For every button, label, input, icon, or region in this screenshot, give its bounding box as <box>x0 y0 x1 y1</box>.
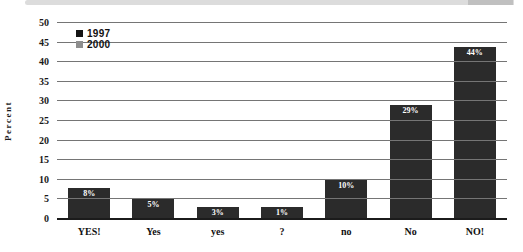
plot-area: 8%5%3%1%10%29%44% <box>57 23 507 219</box>
bar-NO!: 44% <box>454 47 496 219</box>
gridline-35 <box>57 81 507 82</box>
y-tick-label-20: 20 <box>39 136 49 146</box>
bar-slot: 10% <box>314 23 378 219</box>
category-label-no: no <box>314 226 378 242</box>
bar-slot: 5% <box>121 23 185 219</box>
gridline-40 <box>57 61 507 62</box>
gridline-5 <box>57 198 507 199</box>
category-label-Yes: Yes <box>121 226 185 242</box>
legend-swatch-2000 <box>76 41 83 48</box>
legend-row-1997: 1997 <box>76 28 110 39</box>
y-tick-label-5: 5 <box>44 194 49 204</box>
scroll-thumb <box>468 0 513 5</box>
legend: 19972000 <box>76 28 110 50</box>
y-tick-label-30: 30 <box>39 96 49 106</box>
category-label-yes: yes <box>186 226 250 242</box>
bar-value-label: 10% <box>325 180 367 191</box>
category-label-YES!: YES! <box>57 226 121 242</box>
bar-value-label: 44% <box>454 47 496 58</box>
gridline-25 <box>57 120 507 121</box>
bar-slot: 44% <box>443 23 507 219</box>
category-label-?: ? <box>250 226 314 242</box>
gridline-15 <box>57 159 507 160</box>
bar-value-label: 5% <box>132 199 174 210</box>
gridline-45 <box>57 42 507 43</box>
y-axis-tick-labels: 05101520253035404550 <box>0 23 53 219</box>
bar-slot: 3% <box>186 23 250 219</box>
gridline-10 <box>57 179 507 180</box>
bar-slot: 1% <box>250 23 314 219</box>
y-tick-label-40: 40 <box>39 57 49 67</box>
y-tick-label-45: 45 <box>39 38 49 48</box>
y-tick-label-50: 50 <box>39 18 49 28</box>
x-axis-category-labels: YES!Yesyes?noNoNO! <box>57 226 507 242</box>
x-axis-baseline <box>57 218 507 220</box>
gridline-30 <box>57 100 507 101</box>
y-tick-label-25: 25 <box>39 116 49 126</box>
bar-value-label: 3% <box>197 207 239 218</box>
y-tick-label-35: 35 <box>39 77 49 87</box>
y-tick-label-10: 10 <box>39 175 49 185</box>
bar-value-label: 8% <box>68 188 110 199</box>
legend-label-1997: 1997 <box>87 29 110 39</box>
bar-slot: 8% <box>57 23 121 219</box>
gridline-50 <box>57 22 507 23</box>
bars-row: 8%5%3%1%10%29%44% <box>57 23 507 219</box>
legend-swatch-1997 <box>76 30 83 37</box>
category-label-NO!: NO! <box>443 226 507 242</box>
top-scroll-strip <box>25 0 514 5</box>
bar-YES!: 8% <box>68 188 110 219</box>
legend-label-2000: 2000 <box>87 40 110 50</box>
bar-value-label: 29% <box>390 105 432 116</box>
bar-No: 29% <box>390 105 432 219</box>
category-label-No: No <box>378 226 442 242</box>
bar-slot: 29% <box>378 23 442 219</box>
bar-Yes: 5% <box>132 199 174 219</box>
y-tick-label-15: 15 <box>39 155 49 165</box>
bar-no: 10% <box>325 180 367 219</box>
chart-page: { "window": { "top_strip": { "track_colo… <box>0 0 523 252</box>
bar-value-label: 1% <box>261 207 303 218</box>
y-tick-label-0: 0 <box>44 214 49 224</box>
gridline-20 <box>57 140 507 141</box>
legend-row-2000: 2000 <box>76 39 110 50</box>
